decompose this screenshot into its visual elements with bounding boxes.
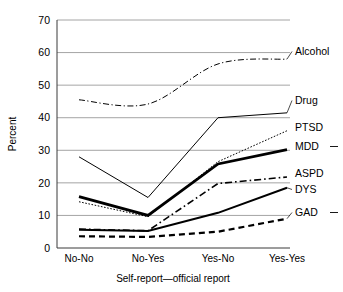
y-tick-label-30: 30 xyxy=(38,144,50,156)
series-label-alcohol: Alcohol xyxy=(295,45,329,57)
x-category-label-yes-no: Yes-No xyxy=(202,253,235,264)
series-label-ptsd: PTSD xyxy=(295,121,323,133)
series-label-drug: Drug xyxy=(295,94,318,106)
x-category-label-no-yes: No-Yes xyxy=(132,253,164,264)
y-tick-label-20: 20 xyxy=(38,177,50,189)
x-category-label-no-no: No-No xyxy=(65,253,94,264)
y-tick-label-50: 50 xyxy=(38,79,50,91)
y-axis-title: Percent xyxy=(7,117,18,152)
y-tick-label-60: 60 xyxy=(38,46,50,58)
series-label-aspd: ASPD xyxy=(295,167,324,179)
chart-canvas: 010203040506070 No-NoNo-YesYes-NoYes-Yes… xyxy=(0,0,343,292)
series-label-dys: DYS xyxy=(295,183,317,195)
y-tick-label-40: 40 xyxy=(38,111,50,123)
y-tick-label-70: 70 xyxy=(38,14,50,26)
y-tick-label-0: 0 xyxy=(44,242,50,254)
percent-by-report-agreement-line-chart: 010203040506070 No-NoNo-YesYes-NoYes-Yes… xyxy=(0,0,343,292)
series-label-gad: GAD xyxy=(295,206,318,218)
x-axis-title: Self-report—official report xyxy=(116,273,230,284)
x-category-label-yes-yes: Yes-Yes xyxy=(269,253,305,264)
series-label-mdd: MDD xyxy=(295,140,319,152)
y-tick-label-10: 10 xyxy=(38,209,50,221)
